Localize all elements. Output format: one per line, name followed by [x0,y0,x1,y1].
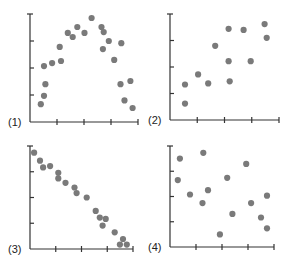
data-point [243,161,249,167]
data-point [224,175,230,181]
data-point [226,58,232,64]
data-point [112,229,118,235]
data-point [93,208,99,214]
scatter-panel-2: (2) [148,14,279,126]
data-point [111,57,117,63]
data-point [118,40,124,46]
data-point [38,101,44,107]
data-point [121,97,127,103]
data-point [74,24,80,30]
data-point [124,242,130,248]
data-point [55,175,61,181]
data-point [70,34,76,40]
data-point [74,190,80,196]
data-point [89,15,95,21]
data-point [258,214,264,220]
data-point [65,30,71,36]
data-point [49,60,55,66]
scatter-panel-1: (1) [8,14,138,128]
data-point [264,225,270,231]
data-point [264,35,270,41]
data-point [117,242,123,248]
data-point [31,150,37,156]
data-point [200,150,206,156]
data-point [182,81,188,87]
data-point [117,81,123,87]
data-point [103,216,109,222]
data-point [205,187,211,193]
data-point [130,105,136,111]
panel-label: (1) [8,116,21,128]
data-point [226,26,232,32]
data-point [264,193,270,199]
scatter-panel-4: (4) [148,146,274,253]
data-point [62,180,68,186]
scatter-panel-3: (3) [8,146,133,255]
data-point [84,194,90,200]
data-point [227,78,233,84]
data-point [127,78,133,84]
data-point [37,158,43,164]
data-point [175,177,181,183]
data-point [97,215,103,221]
data-point [101,29,107,35]
data-point [248,58,254,64]
data-point [199,200,205,206]
data-point [100,46,106,52]
data-point [217,231,223,237]
data-point [229,211,235,217]
data-point [41,63,47,69]
data-point [100,223,106,229]
data-point [120,236,126,242]
data-point [55,170,61,176]
data-point [177,156,183,162]
data-point [41,93,47,99]
data-point [248,200,254,206]
data-point [205,80,211,86]
data-point [106,38,112,44]
data-point [47,163,53,169]
data-point [182,101,188,107]
panel-label: (2) [148,114,161,126]
panel-label: (4) [148,241,161,253]
panel-label: (3) [8,243,21,255]
data-point [212,43,218,49]
data-point [71,184,77,190]
data-point [262,21,268,27]
data-point [187,191,193,197]
data-point [81,30,87,36]
data-point [58,58,64,64]
data-point [40,164,46,170]
data-point [57,44,63,50]
data-point [241,27,247,33]
data-point [195,71,201,77]
scatter-figure: (1) (2) (3) (4) [0,0,296,272]
data-point [42,81,48,87]
